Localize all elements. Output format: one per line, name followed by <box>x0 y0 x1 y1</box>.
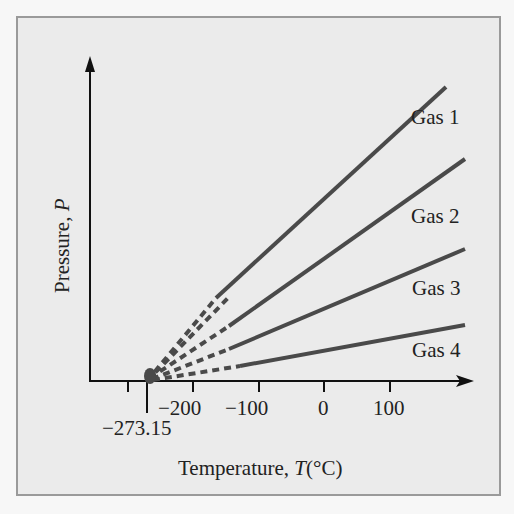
tick-label-0: 0 <box>318 396 329 420</box>
tick-label-minus-100: −100 <box>225 396 268 420</box>
series-dashes <box>150 326 240 380</box>
label-gas-3: Gas 3 <box>412 276 460 300</box>
chart-plot: −273.15 −200 −100 0 100 Gas 1 Gas 2 Gas … <box>0 0 514 514</box>
y-axis-title-var: P <box>50 198 74 212</box>
x-axis-title: Temperature, T(°C) <box>178 456 342 480</box>
tick-label-minus-200: −200 <box>158 396 201 420</box>
series-labels: Gas 1 Gas 2 Gas 3 Gas 4 <box>411 105 461 362</box>
y-axis-title-prefix: Pressure, <box>50 211 74 293</box>
y-axis-arrow-icon <box>85 56 95 72</box>
y-axis-title: Pressure, P <box>50 198 74 293</box>
series-lines <box>147 87 465 381</box>
x-axis-title-unit: (°C) <box>306 456 342 480</box>
convergence-point <box>144 368 156 384</box>
label-gas-1: Gas 1 <box>411 105 459 129</box>
label-gas-4: Gas 4 <box>412 338 461 362</box>
label-gas-2: Gas 2 <box>411 204 459 228</box>
tick-label-100: 100 <box>373 396 405 420</box>
x-axis-title-prefix: Temperature, <box>178 456 294 480</box>
